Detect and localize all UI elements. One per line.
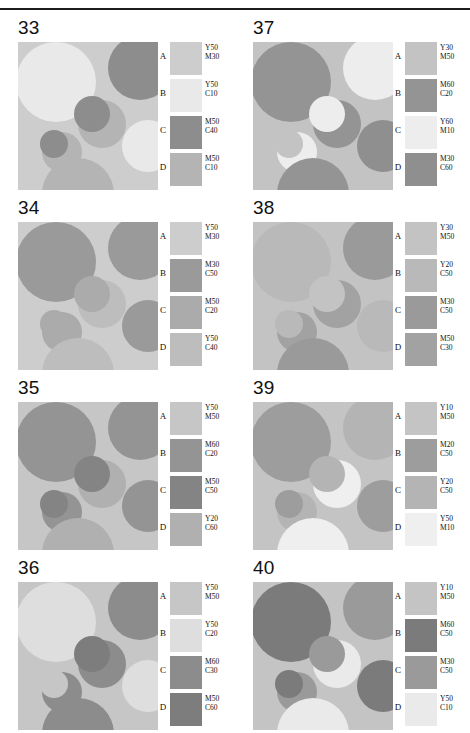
color-panel: 38AY30M50BY20C50CM30C50DM50C30	[235, 194, 470, 374]
circle-composition	[18, 402, 158, 550]
swatch-ink-values: Y50M50	[205, 583, 219, 601]
panel-body: AY30M50BY20C50CM30C50DM50C30	[253, 222, 455, 370]
swatch-ink-values: M60C20	[205, 440, 219, 458]
color-swatch	[405, 296, 437, 329]
swatch-row: BM30C50	[158, 259, 220, 292]
swatch-letter: C	[158, 306, 168, 315]
circle-composition	[253, 42, 393, 190]
color-swatch	[405, 333, 437, 366]
color-swatch	[405, 582, 437, 615]
swatch-ink-values: M50C30	[440, 334, 454, 352]
swatch-ink-values: M50C10	[205, 154, 219, 172]
color-swatch	[170, 439, 202, 472]
color-panel: 40AY10M50BM60C50CM30C50DY50C10	[235, 554, 470, 733]
swatch-row: DY20C60	[158, 513, 220, 546]
swatch-ink-line-2: C30	[205, 666, 219, 675]
panel-body: AY50M30BM30C50CM50C20DY50C40	[18, 222, 220, 370]
swatch-ink-line-1: M50	[205, 477, 219, 486]
swatch-letter: C	[158, 486, 168, 495]
color-swatch	[170, 619, 202, 652]
circle-composition	[253, 222, 393, 370]
swatch-ink-line-1: Y60	[440, 117, 454, 126]
circle-composition	[18, 582, 158, 730]
swatch-ink-line-2: M50	[440, 592, 454, 601]
swatch-ink-line-2: C50	[440, 449, 454, 458]
color-swatch	[170, 42, 202, 75]
swatch-ink-values: M30C50	[440, 297, 454, 315]
swatch-ink-values: M50C20	[205, 297, 219, 315]
swatch-legend: AY30M50BY20C50CM30C50DM50C30	[393, 222, 455, 370]
header-rule	[0, 8, 470, 10]
swatch-ink-line-2: M50	[440, 52, 454, 61]
color-swatch	[405, 222, 437, 255]
swatch-ink-line-1: Y30	[440, 223, 454, 232]
swatch-ink-line-2: M50	[440, 412, 454, 421]
color-swatch	[170, 296, 202, 329]
swatch-ink-line-1: M50	[205, 694, 219, 703]
swatch-ink-values: M60C30	[205, 657, 219, 675]
swatch-row: CM50C40	[158, 116, 220, 149]
swatch-letter: C	[393, 306, 403, 315]
swatch-letter: B	[158, 269, 168, 278]
swatch-ink-line-2: C50	[440, 486, 453, 495]
swatch-ink-values: Y20C50	[440, 477, 453, 495]
swatch-letter: A	[158, 52, 168, 61]
swatch-ink-line-1: Y50	[205, 583, 219, 592]
swatch-row: BM60C20	[158, 439, 220, 472]
swatch-ink-line-1: Y50	[440, 694, 453, 703]
swatch-ink-values: Y10M50	[440, 403, 454, 421]
swatch-row: CY60M10	[393, 116, 455, 149]
circle-composition	[18, 222, 158, 370]
swatch-ink-values: Y30M50	[440, 223, 454, 241]
swatch-legend: AY50M30BM30C50CM50C20DY50C40	[158, 222, 220, 370]
swatch-ink-line-2: M30	[205, 52, 219, 61]
swatch-ink-line-2: C10	[440, 703, 453, 712]
swatch-legend: AY50M50BY50C20CM60C30DM50C60	[158, 582, 220, 730]
swatch-row: DM30C60	[393, 153, 455, 186]
swatch-row: AY30M50	[393, 42, 455, 75]
swatch-letter: A	[158, 232, 168, 241]
color-swatch	[405, 513, 437, 546]
swatch-ink-line-1: M30	[440, 154, 454, 163]
swatch-letter: D	[158, 163, 168, 172]
swatch-letter: D	[158, 343, 168, 352]
swatch-row: AY50M30	[158, 42, 220, 75]
swatch-ink-line-2: C10	[205, 89, 218, 98]
swatch-ink-values: Y10M50	[440, 583, 454, 601]
swatch-letter: B	[393, 449, 403, 458]
panel-body: AY50M50BM60C20CM50C50DY20C60	[18, 402, 220, 550]
color-panel: 39AY10M50BM20C50CY20C50DY50M10	[235, 374, 470, 554]
swatch-ink-line-2: M30	[205, 232, 219, 241]
swatch-letter: A	[158, 412, 168, 421]
color-swatch	[405, 476, 437, 509]
swatch-row: BY50C10	[158, 79, 220, 112]
swatch-ink-line-2: C20	[205, 449, 219, 458]
color-swatch	[405, 259, 437, 292]
swatch-row: CM50C50	[158, 476, 220, 509]
swatch-ink-line-1: Y50	[205, 334, 218, 343]
color-swatch	[405, 693, 437, 726]
swatch-ink-line-2: C60	[205, 703, 219, 712]
swatch-letter: A	[393, 412, 403, 421]
swatch-ink-values: M50C40	[205, 117, 219, 135]
swatch-ink-values: Y50M30	[205, 223, 219, 241]
swatch-legend: AY50M30BY50C10CM50C40DM50C10	[158, 42, 220, 190]
swatch-ink-values: Y50M30	[205, 43, 219, 61]
swatch-ink-line-1: M30	[205, 260, 219, 269]
swatch-row: AY10M50	[393, 402, 455, 435]
swatch-ink-values: M60C20	[440, 80, 454, 98]
swatch-legend: AY10M50BM20C50CY20C50DY50M10	[393, 402, 455, 550]
swatch-row: BY20C50	[393, 259, 455, 292]
color-panel: 37AY30M50BM60C20CY60M10DM30C60	[235, 14, 470, 194]
swatch-ink-line-1: M50	[205, 154, 219, 163]
swatch-ink-line-2: C20	[205, 629, 218, 638]
swatch-ink-line-1: M60	[205, 440, 219, 449]
panel-body: AY10M50BM60C50CM30C50DY50C10	[253, 582, 455, 730]
swatch-ink-values: M50C60	[205, 694, 219, 712]
swatch-ink-line-2: C50	[440, 666, 454, 675]
swatch-ink-values: M30C60	[440, 154, 454, 172]
swatch-ink-line-2: C60	[205, 523, 218, 532]
swatch-ink-line-2: C10	[205, 163, 219, 172]
swatch-ink-line-1: Y20	[440, 477, 453, 486]
color-swatch	[170, 333, 202, 366]
